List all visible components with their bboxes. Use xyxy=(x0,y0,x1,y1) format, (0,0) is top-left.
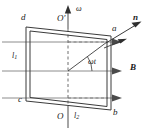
magnetic-field-arrowheads xyxy=(112,39,122,102)
construction-dashed-lines xyxy=(68,42,108,98)
label-vertex-c: c xyxy=(18,95,22,104)
normal-vector-n-group xyxy=(104,22,142,49)
label-vertex-b: b xyxy=(113,108,118,117)
label-axis-origin-top-prime: ′ xyxy=(64,13,66,23)
label-vertex-a: a xyxy=(112,24,117,33)
label-side-l2: l2 xyxy=(74,112,79,120)
omega-arrowhead xyxy=(65,5,71,14)
label-side-l2-subscript: 2 xyxy=(76,114,79,120)
physics-diagram-rotating-coil: d a c b O′ O ω n B ωt l1 l2 xyxy=(0,0,150,133)
magnetic-field-lines xyxy=(2,42,116,98)
label-vertex-d: d xyxy=(21,13,26,22)
label-axis-origin-top: O′ xyxy=(57,14,65,23)
label-axis-origin-bottom: O xyxy=(57,112,64,121)
label-angle-omega-t: ωt xyxy=(88,58,96,66)
label-omega: ω xyxy=(76,5,82,13)
label-normal-vector-n: n xyxy=(133,13,138,22)
rotation-axis-group xyxy=(65,5,71,128)
label-side-l1: l1 xyxy=(12,52,17,60)
label-side-l1-subscript: 1 xyxy=(14,54,17,60)
field-arrowhead-bottom xyxy=(112,95,122,102)
label-field-vector-B: B xyxy=(130,63,136,72)
field-arrowhead-middle xyxy=(112,68,122,75)
